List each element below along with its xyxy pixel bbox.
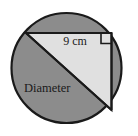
side-length-label: 9 cm — [63, 34, 87, 48]
geometry-diagram-svg: 9 cm Diameter — [0, 0, 138, 136]
geometry-figure: 9 cm Diameter — [0, 0, 138, 136]
diameter-label: Diameter — [24, 81, 71, 95]
